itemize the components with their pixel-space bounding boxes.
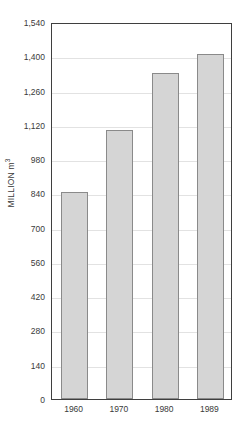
x-axis-tick-label: 1960 xyxy=(64,404,83,414)
y-axis-tick-label: 1,260 xyxy=(0,87,45,97)
y-axis-tick-labels: 01402804205607008409801,1201,2601,4001,5… xyxy=(0,23,45,400)
bar-chart-figure: MILLION m3 01402804205607008409801,1201,… xyxy=(0,0,245,435)
y-axis-tick-label: 1,120 xyxy=(0,121,45,131)
y-axis-tick-label: 140 xyxy=(0,361,45,371)
y-axis-tick-label: 1,400 xyxy=(0,52,45,62)
y-axis-tick-label: 420 xyxy=(0,292,45,302)
plot-area xyxy=(51,23,232,400)
x-axis-tick-label: 1970 xyxy=(109,404,128,414)
y-axis-tick-label: 700 xyxy=(0,224,45,234)
bar xyxy=(152,73,179,399)
bars-layer xyxy=(52,24,231,399)
y-axis-tick-label: 0 xyxy=(0,395,45,405)
y-axis-tick-label: 560 xyxy=(0,258,45,268)
bar xyxy=(106,130,133,399)
x-axis-tick-label: 1989 xyxy=(200,404,219,414)
y-axis-tick-label: 840 xyxy=(0,189,45,199)
y-axis-tick-label: 980 xyxy=(0,155,45,165)
y-axis-tick-label: 280 xyxy=(0,326,45,336)
bar xyxy=(197,54,224,399)
y-axis-tick-label: 1,540 xyxy=(0,18,45,28)
x-axis-tick-label: 1980 xyxy=(155,404,174,414)
bar xyxy=(61,192,88,399)
x-axis-tick-labels: 1960197019801989 xyxy=(51,404,232,420)
